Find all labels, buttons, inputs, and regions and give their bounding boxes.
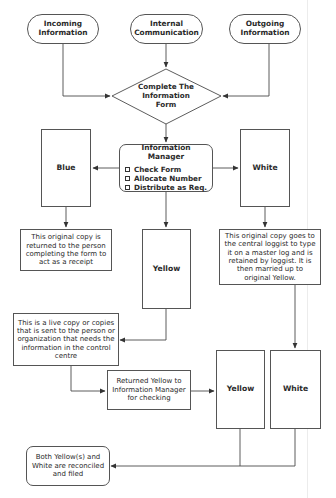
internal-communication-node: Internal Communication bbox=[130, 14, 203, 44]
returned-yellow-note: Returned Yellow to Information Manager f… bbox=[107, 370, 191, 410]
yellow-returned-node: Yellow bbox=[216, 350, 265, 429]
outgoing-label-2: Information bbox=[240, 29, 289, 38]
task-distribute: Distribute as Req. bbox=[125, 183, 207, 192]
internal-label-2: Communication bbox=[134, 29, 199, 38]
white-copy-node: White bbox=[240, 129, 290, 207]
white-final-label: White bbox=[283, 385, 308, 394]
reconciled-filed-node: Both Yellow(s) and White are reconciled … bbox=[26, 446, 110, 486]
blue-copy-node: Blue bbox=[41, 129, 91, 207]
white-copy-note: This original copy goes to the central l… bbox=[219, 229, 321, 285]
yellow-returned-label: Yellow bbox=[227, 385, 254, 394]
yellow-copy-note: This is a live copy or copies that is se… bbox=[13, 313, 119, 366]
blue-copy-note: This original copy is returned to the pe… bbox=[20, 229, 112, 271]
incoming-information-node: Incoming Information bbox=[27, 14, 99, 44]
yellow-copy-label: Yellow bbox=[153, 265, 180, 274]
decision-label: Complete The Information Form bbox=[126, 83, 206, 109]
blue-copy-label: Blue bbox=[57, 164, 76, 173]
white-copy-label: White bbox=[252, 164, 277, 173]
checkbox-icon bbox=[125, 167, 130, 172]
task-check-form: Check Form bbox=[125, 165, 207, 174]
incoming-label-2: Information bbox=[38, 29, 87, 38]
checkbox-icon bbox=[125, 185, 130, 190]
information-manager-tasks: Check Form Allocate Number Distribute as… bbox=[125, 165, 207, 192]
white-final-node: White bbox=[270, 350, 321, 429]
yellow-copy-node: Yellow bbox=[142, 229, 191, 309]
information-manager-node: Information Manager Check Form Allocate … bbox=[119, 144, 213, 192]
checkbox-icon bbox=[125, 176, 130, 181]
information-manager-title: Information Manager bbox=[124, 144, 208, 161]
decision-line-3: Form bbox=[126, 101, 206, 110]
outgoing-information-node: Outgoing Information bbox=[229, 14, 301, 44]
flowchart-canvas: Incoming Information Internal Communicat… bbox=[0, 0, 336, 498]
task-allocate-number: Allocate Number bbox=[125, 174, 207, 183]
